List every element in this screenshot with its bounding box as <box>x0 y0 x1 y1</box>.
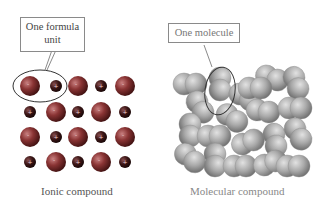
anion-sphere: - <box>68 76 88 96</box>
formula-unit-highlight <box>13 50 67 102</box>
cation-sphere: + <box>24 106 36 118</box>
ionic-lattice: -+-+-+-+-+-+-+-+-+-+ <box>20 76 135 172</box>
anion-sphere: - <box>115 76 135 96</box>
callout-line-1: One formula <box>21 20 84 33</box>
anion-sphere: - <box>46 152 66 172</box>
diatomic-molecule <box>223 155 257 177</box>
svg-text:+: + <box>27 108 32 115</box>
cation-sphere: + <box>50 131 62 143</box>
svg-text:-: - <box>27 80 29 87</box>
cation-sphere: + <box>72 106 84 118</box>
anion-sphere: - <box>20 127 40 147</box>
callout-text: One molecule <box>175 27 234 38</box>
diatomic-molecule <box>238 77 272 99</box>
svg-text:-: - <box>27 131 29 138</box>
svg-text:+: + <box>122 108 127 115</box>
ionic-compound-caption: Ionic compound <box>41 185 113 197</box>
cation-sphere: + <box>95 131 107 143</box>
svg-text:-: - <box>53 106 55 113</box>
diatomic-molecule <box>276 155 310 177</box>
svg-text:-: - <box>53 156 55 163</box>
anion-sphere: - <box>68 127 88 147</box>
anion-sphere: - <box>115 127 135 147</box>
anion-sphere: - <box>91 152 111 172</box>
diatomic-molecule <box>179 113 201 147</box>
molecular-compound-caption: Molecular compound <box>190 185 284 197</box>
cation-sphere: + <box>24 156 36 168</box>
svg-text:+: + <box>122 158 127 165</box>
diatomic-molecule <box>280 63 312 102</box>
cation-sphere: + <box>119 156 131 168</box>
svg-text:+: + <box>75 158 80 165</box>
cation-sphere: + <box>50 80 62 92</box>
svg-text:+: + <box>53 133 58 140</box>
svg-text:-: - <box>98 106 100 113</box>
cation-sphere: + <box>119 106 131 118</box>
svg-text:-: - <box>122 131 124 138</box>
anion-sphere: - <box>20 76 40 96</box>
callout-line-2: unit <box>21 33 84 46</box>
svg-text:+: + <box>53 82 58 89</box>
cation-sphere: + <box>95 80 107 92</box>
svg-text:+: + <box>98 133 103 140</box>
diatomic-molecule <box>278 97 312 119</box>
cation-sphere: + <box>72 156 84 168</box>
diatomic-molecule <box>173 73 207 95</box>
formula-unit-callout: One formula unit <box>20 17 85 52</box>
svg-text:-: - <box>122 80 124 87</box>
anion-sphere: - <box>46 102 66 122</box>
diatomic-molecule <box>244 97 281 125</box>
molecular-lattice <box>170 62 316 179</box>
svg-text:-: - <box>75 131 77 138</box>
svg-text:+: + <box>27 158 32 165</box>
diatomic-molecule <box>204 143 226 177</box>
svg-text:+: + <box>98 82 103 89</box>
anion-sphere: - <box>91 102 111 122</box>
molecule-callout: One molecule <box>168 23 240 43</box>
svg-text:-: - <box>75 80 77 87</box>
svg-text:-: - <box>98 156 100 163</box>
svg-text:+: + <box>75 108 80 115</box>
